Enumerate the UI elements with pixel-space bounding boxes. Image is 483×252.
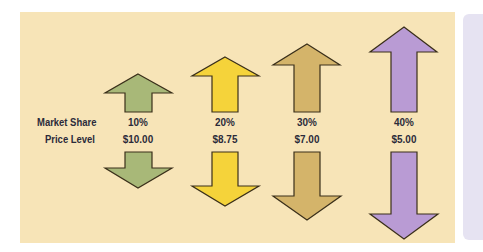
down-arrow-icon	[370, 152, 438, 239]
up-arrow-icon	[370, 27, 437, 112]
down-arrow-icon	[192, 152, 259, 206]
market-share-value: 10%	[111, 116, 165, 128]
up-arrow-icon	[273, 44, 340, 112]
price-level-label: Price Level	[45, 133, 95, 145]
price-level-value: $7.00	[280, 133, 334, 145]
up-arrow-icon	[105, 74, 172, 112]
market-share-value: 30%	[280, 116, 334, 128]
price-level-value: $10.00	[111, 133, 165, 145]
price-level-value: $5.00	[377, 133, 431, 145]
market-share-label: Market Share	[37, 116, 96, 128]
down-arrow-icon	[273, 152, 341, 220]
down-arrow-icon	[105, 152, 172, 188]
price-level-value: $8.75	[198, 133, 252, 145]
market-share-value: 20%	[198, 116, 252, 128]
market-share-value: 40%	[377, 116, 431, 128]
up-arrow-icon	[192, 57, 259, 112]
